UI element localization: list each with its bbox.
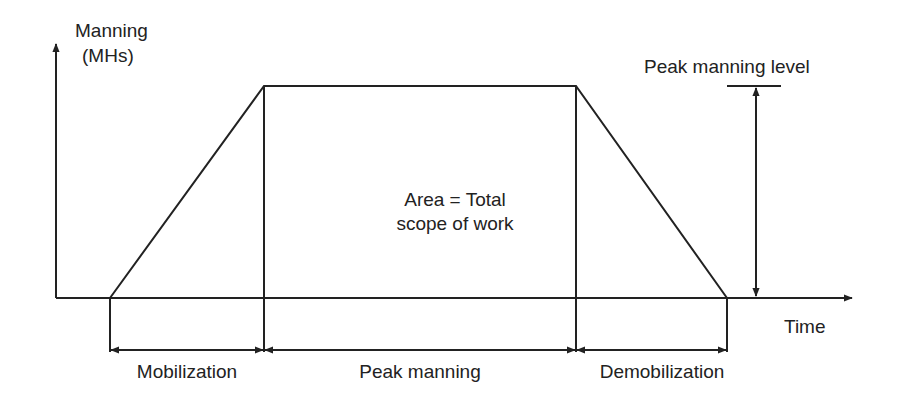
x-axis-label: Time xyxy=(784,317,826,336)
y-axis-label-line1: Manning xyxy=(75,21,148,40)
peak-level-label: Peak manning level xyxy=(644,57,810,76)
area-label-line1: Area = Total xyxy=(355,190,555,209)
phase-label-demobilization: Demobilization xyxy=(576,362,748,381)
phase-label-mobilization: Mobilization xyxy=(110,362,264,381)
y-axis-label-line2: (MHs) xyxy=(82,46,134,65)
area-label-line2: scope of work xyxy=(340,214,570,233)
phase-label-peak-manning: Peak manning xyxy=(264,362,576,381)
